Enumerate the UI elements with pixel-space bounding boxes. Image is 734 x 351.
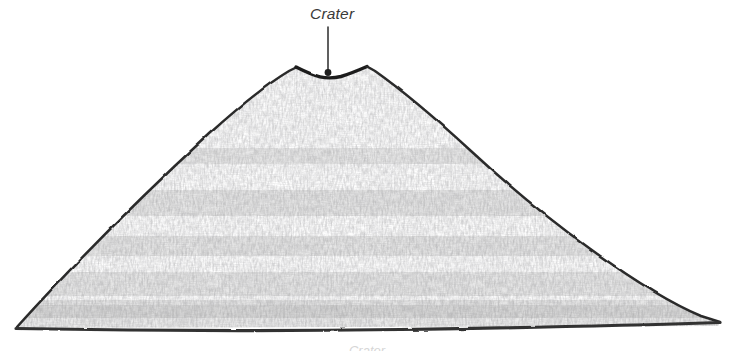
volcano-diagram-figure: Crater Crater: [0, 0, 734, 351]
volcano-shading: [0, 0, 734, 351]
annotation-crater: Crater: [310, 5, 355, 76]
volcano-body: [0, 0, 734, 351]
volcano-diagram-svg: Crater: [0, 0, 734, 351]
crater-leader-dot: [325, 69, 332, 76]
grain-layer-blotch: [0, 0, 734, 351]
crater-label: Crater: [310, 5, 355, 22]
